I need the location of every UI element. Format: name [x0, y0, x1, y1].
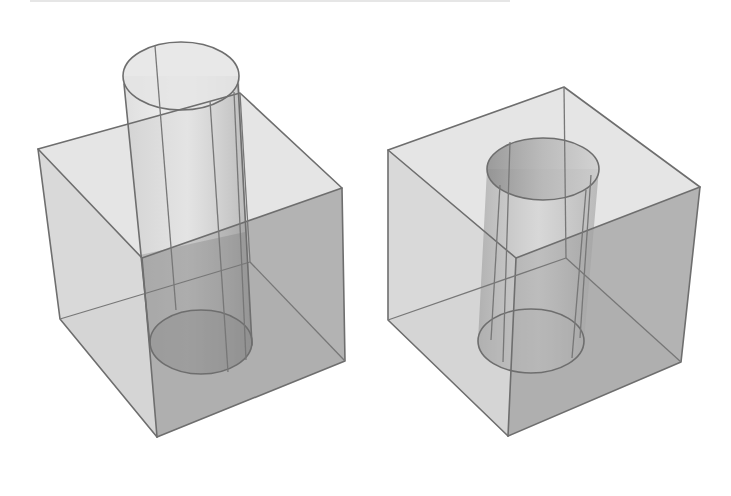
left-panel-cube-with-protruding-cylinder: [38, 42, 345, 437]
figure-canvas: [0, 0, 731, 496]
right-panel-cube-with-cylindrical-hole: [388, 87, 700, 436]
